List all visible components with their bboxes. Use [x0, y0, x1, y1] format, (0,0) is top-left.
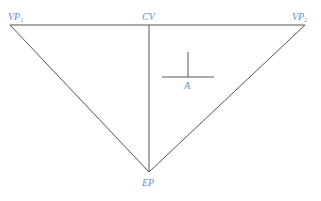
vp2-label-text: VP	[292, 11, 304, 22]
vp1-label-text: VP	[8, 11, 20, 22]
perspective-diagram	[0, 0, 321, 201]
vp2-to-ep-line	[149, 25, 305, 172]
cv-label-text: CV	[142, 11, 155, 22]
ep-label-text: EP	[142, 177, 154, 188]
vp2-label: VP2	[292, 12, 307, 25]
vp1-label: VP1	[8, 12, 23, 25]
a-label: A	[184, 81, 190, 91]
vp1-label-sub: 1	[20, 17, 23, 23]
cv-label: CV	[142, 12, 155, 22]
ep-label: EP	[142, 178, 154, 188]
vp2-label-sub: 2	[304, 17, 307, 23]
vp1-to-ep-line	[10, 25, 149, 172]
a-label-text: A	[184, 80, 190, 91]
